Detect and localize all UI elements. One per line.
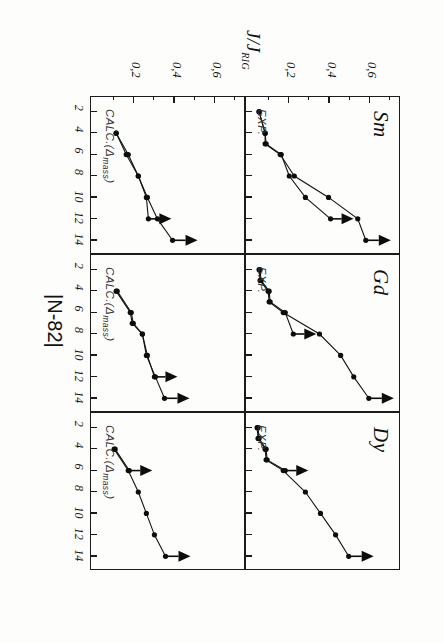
- y-tick-minor: [153, 96, 154, 100]
- y-tick-minor: [308, 96, 309, 100]
- x-tick-label: 14: [71, 233, 86, 245]
- x-tick-label: 8: [71, 485, 86, 491]
- panel-title-dy: Dy: [368, 427, 393, 453]
- plot-panel-dy-exp: DyEXP.: [245, 412, 400, 570]
- panel-inner: GdEXP.: [246, 255, 399, 411]
- x-tick-label: 6: [71, 147, 86, 153]
- y-tick-label: 0,4: [169, 62, 184, 78]
- y-tick: [173, 96, 174, 103]
- branch-arrow-left: [349, 550, 374, 561]
- x-tick: [245, 217, 252, 218]
- x-tick: [90, 311, 97, 312]
- y-tick: [214, 96, 215, 103]
- x-tick: [245, 153, 252, 154]
- x-tick-label: 6: [71, 463, 86, 469]
- x-tick: [90, 533, 97, 534]
- x-tick: [90, 448, 97, 449]
- x-tick: [90, 290, 97, 291]
- x-tick: [245, 110, 252, 111]
- x-tick-label: 4: [71, 442, 86, 448]
- x-tick-label: 12: [71, 369, 86, 381]
- branch-arrow-right: [154, 371, 177, 382]
- data-point: [152, 532, 157, 537]
- series-line-lower-branch: [115, 449, 129, 470]
- data-point: [326, 194, 331, 199]
- plot-panel-gd-calc: CALC.(Δmass): [90, 254, 245, 412]
- branch-arrow-right: [331, 213, 354, 224]
- y-tick-minor: [389, 96, 390, 100]
- y-axis-title-main: J/J: [243, 30, 264, 52]
- x-tick-label: 12: [71, 527, 86, 539]
- x-tick: [245, 311, 252, 312]
- y-tick-label: 0,2: [283, 62, 298, 78]
- x-tick: [245, 290, 252, 291]
- data-point: [317, 331, 322, 336]
- x-tick-label: 2: [71, 104, 86, 110]
- figure-canvas: J/JRIG SmEXP.0,20,40,6GdEXP.DyEXP.CALC.(…: [0, 0, 444, 643]
- y-tick-label: 0,4: [324, 62, 339, 78]
- x-tick: [245, 555, 252, 556]
- branch-arrow-right: [285, 465, 308, 476]
- x-tick: [90, 354, 97, 355]
- x-tick-label: 8: [71, 327, 86, 333]
- y-tick-minor: [234, 96, 235, 100]
- panel-inner: DyEXP.: [246, 413, 399, 569]
- x-tick: [245, 375, 252, 376]
- y-tick: [288, 96, 289, 103]
- plot-panel-sm-calc: CALC.(Δmass): [90, 96, 245, 254]
- x-tick: [245, 426, 252, 427]
- row-label: EXP.: [256, 425, 268, 451]
- x-tick: [90, 375, 97, 376]
- plot-panel-dy-calc: CALC.(Δmass): [90, 412, 245, 570]
- y-tick: [133, 96, 134, 103]
- x-tick: [90, 268, 97, 269]
- data-point: [144, 510, 149, 515]
- plot-panel-gd-exp: GdEXP.: [245, 254, 400, 412]
- branch-arrow-left: [369, 392, 394, 403]
- x-tick: [245, 239, 252, 240]
- series-line-upper-branch: [116, 291, 164, 398]
- y-tick: [369, 96, 370, 103]
- data-point: [287, 173, 292, 178]
- x-tick-label: 10: [71, 348, 86, 360]
- branch-arrow-left: [366, 234, 391, 245]
- panel-grid: SmEXP.0,20,40,6GdEXP.DyEXP.CALC.(Δmass)0…: [90, 96, 400, 570]
- branch-arrow-right: [129, 465, 152, 476]
- y-axis-title-sub: RIG: [240, 52, 251, 70]
- x-tick: [90, 196, 97, 197]
- x-axis-title: |N-82|: [43, 294, 66, 348]
- series-line-upper-branch: [114, 449, 165, 556]
- data-point: [136, 489, 141, 494]
- x-tick: [90, 175, 97, 176]
- x-tick: [90, 397, 97, 398]
- panel-inner: CALC.(Δmass): [91, 255, 244, 411]
- series-line-lower-branch: [116, 133, 148, 219]
- panel-inner: CALC.(Δmass): [91, 97, 244, 253]
- x-tick-label: 14: [71, 391, 86, 403]
- x-tick: [245, 533, 252, 534]
- x-tick: [90, 333, 97, 334]
- x-tick: [90, 110, 97, 111]
- row-label: EXP.: [256, 109, 268, 135]
- branch-arrow-left: [166, 550, 191, 561]
- x-tick: [245, 175, 252, 176]
- x-tick-label: 8: [71, 169, 86, 175]
- branch-arrow-left: [173, 234, 198, 245]
- row-label: CALC.(Δmass): [101, 267, 116, 341]
- x-tick: [245, 512, 252, 513]
- x-tick: [90, 555, 97, 556]
- x-tick: [245, 268, 252, 269]
- row-label: CALC.(Δmass): [101, 109, 116, 183]
- y-tick: [328, 96, 329, 103]
- y-tick-minor: [194, 96, 195, 100]
- panel-title-gd: Gd: [368, 269, 393, 296]
- x-tick-label: 4: [71, 284, 86, 290]
- x-tick: [90, 426, 97, 427]
- y-tick-minor: [268, 96, 269, 100]
- branch-arrow-left: [164, 392, 189, 403]
- x-tick-label: 2: [71, 420, 86, 426]
- x-tick-label: 10: [71, 190, 86, 202]
- x-tick: [245, 491, 252, 492]
- x-tick: [245, 196, 252, 197]
- x-tick: [245, 469, 252, 470]
